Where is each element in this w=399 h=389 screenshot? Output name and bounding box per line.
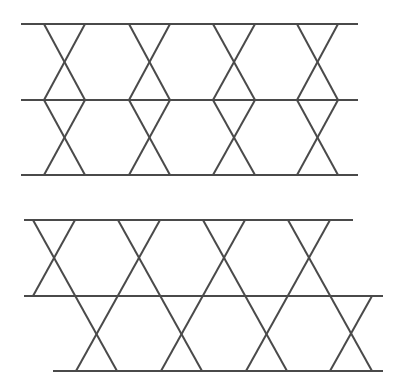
diagram-canvas	[0, 0, 399, 389]
figure-aligned-x-pattern	[21, 24, 358, 175]
figure-offset-x-pattern	[24, 220, 383, 371]
